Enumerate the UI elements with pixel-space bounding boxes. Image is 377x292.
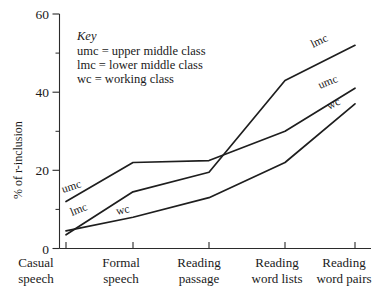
x-tick-label-0-line2: speech	[18, 271, 54, 286]
y-tick-label-20: 20	[36, 163, 50, 178]
y-tick-label-60: 60	[36, 7, 50, 22]
series-line-wc	[66, 104, 355, 231]
series-label-wc-left: wc	[115, 202, 131, 217]
key-entry-umc: umc = upper middle class	[77, 44, 206, 58]
series-label-umc-left: umc	[60, 177, 83, 195]
y-tick-label-40: 40	[36, 85, 50, 100]
series-line-umc	[66, 88, 355, 201]
y-axis-title: % of r-inclusion	[11, 121, 25, 199]
key-entry-lmc: lmc = lower middle class	[77, 58, 203, 72]
series-label-umc-right: umc	[316, 72, 339, 91]
x-tick-label-3-line1: Reading	[255, 255, 299, 270]
series-label-lmc-left: lmc	[68, 200, 88, 218]
x-tick-label-1-line1: Formal	[102, 255, 140, 270]
key-title: Key	[76, 29, 97, 43]
x-tick-label-2-line1: Reading	[177, 255, 221, 270]
x-tick-label-3-line2: word lists	[252, 271, 303, 286]
x-tick-label-2-line2: passage	[179, 271, 220, 286]
series-label-lmc-right: lmc	[309, 31, 330, 49]
chart-container: 60 40 20 0 % of r-inclusion Casual speec…	[0, 0, 377, 292]
x-tick-label-4-line2: word pairs	[316, 271, 371, 286]
key-entry-wc: wc = working class	[77, 72, 174, 86]
x-tick-label-4-line1: Reading	[322, 255, 366, 270]
r-inclusion-line-chart: 60 40 20 0 % of r-inclusion Casual speec…	[0, 0, 377, 292]
x-tick-label-0-line1: Casual	[18, 255, 54, 270]
x-tick-label-1-line2: speech	[103, 271, 139, 286]
